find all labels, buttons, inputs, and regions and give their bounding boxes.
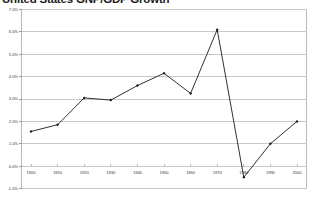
x-axis-tick-label: 1930 [100, 170, 122, 175]
x-axis-tick-label: 2000 [286, 170, 308, 175]
x-axis-tick-labels: 1900191019201930194019501960197019801990… [0, 0, 313, 203]
x-axis-tick-mark [110, 164, 111, 166]
x-axis-tick-label: 1990 [259, 170, 281, 175]
x-axis-tick-label: 1960 [180, 170, 202, 175]
x-axis-tick-label: 1950 [153, 170, 175, 175]
x-axis-tick-label: 1920 [73, 170, 95, 175]
x-axis-tick-mark [137, 164, 138, 166]
x-axis-tick-label: 1910 [47, 170, 69, 175]
x-axis-tick-mark [297, 164, 298, 166]
x-axis-tick-mark [57, 164, 58, 166]
x-axis-tick-mark [164, 164, 165, 166]
x-axis-tick-mark [217, 164, 218, 166]
x-axis-tick-mark [190, 164, 191, 166]
x-axis-tick-label: 1940 [126, 170, 148, 175]
x-axis-tick-mark [31, 164, 32, 166]
chart-container: United States GNP/GDP Growth 7.0%6.0%5.0… [0, 0, 313, 203]
x-axis-tick-label: 1980 [233, 170, 255, 175]
x-axis-tick-mark [84, 164, 85, 166]
x-axis-tick-label: 1970 [206, 170, 228, 175]
x-axis-tick-mark [270, 164, 271, 166]
x-axis-tick-mark [243, 164, 244, 166]
x-axis-tick-label: 1900 [20, 170, 42, 175]
